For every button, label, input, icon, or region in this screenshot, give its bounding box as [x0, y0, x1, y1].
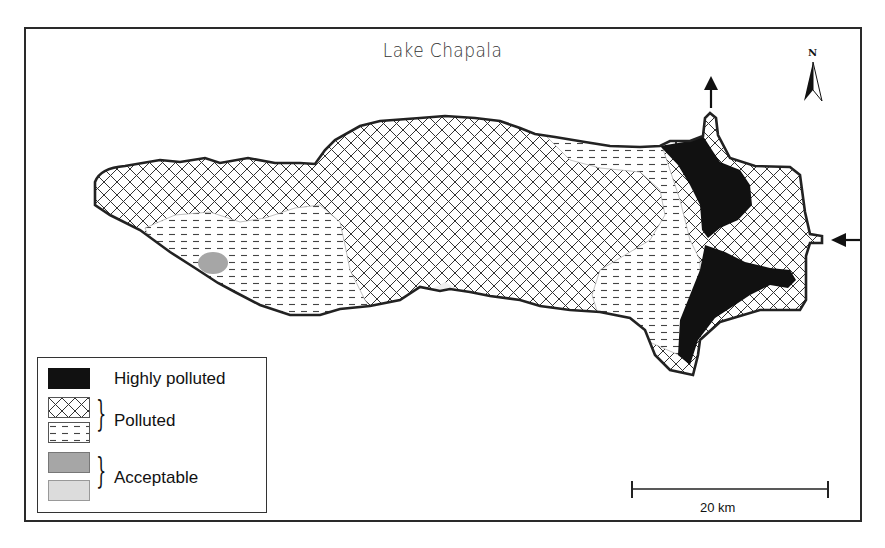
- legend-brace-acceptable: }: [96, 453, 106, 489]
- legend-brace-polluted: }: [96, 396, 106, 432]
- scale-bar: [632, 481, 828, 498]
- north-label: N: [808, 47, 817, 58]
- legend-swatch-acceptable-dark: [48, 452, 90, 473]
- legend-swatch-highly-polluted: [48, 368, 90, 389]
- legend-swatch-polluted-dashed: [48, 422, 90, 443]
- scale-bar-label: 20 km: [700, 500, 735, 515]
- outflow-arrow-icon: [704, 76, 718, 108]
- legend-swatch-polluted-crosshatch: [48, 397, 90, 418]
- north-arrow-icon: [804, 62, 822, 101]
- legend-label-polluted: Polluted: [114, 411, 175, 431]
- legend: Highly polluted } Polluted } Acceptable: [37, 357, 267, 513]
- inflow-arrow-icon: [831, 233, 860, 247]
- acceptable-dark-zone: [198, 252, 228, 274]
- lake-zones: [80, 100, 840, 390]
- legend-label-highly-polluted: Highly polluted: [114, 369, 226, 389]
- legend-swatch-acceptable-light: [48, 480, 90, 501]
- legend-label-acceptable: Acceptable: [114, 468, 198, 488]
